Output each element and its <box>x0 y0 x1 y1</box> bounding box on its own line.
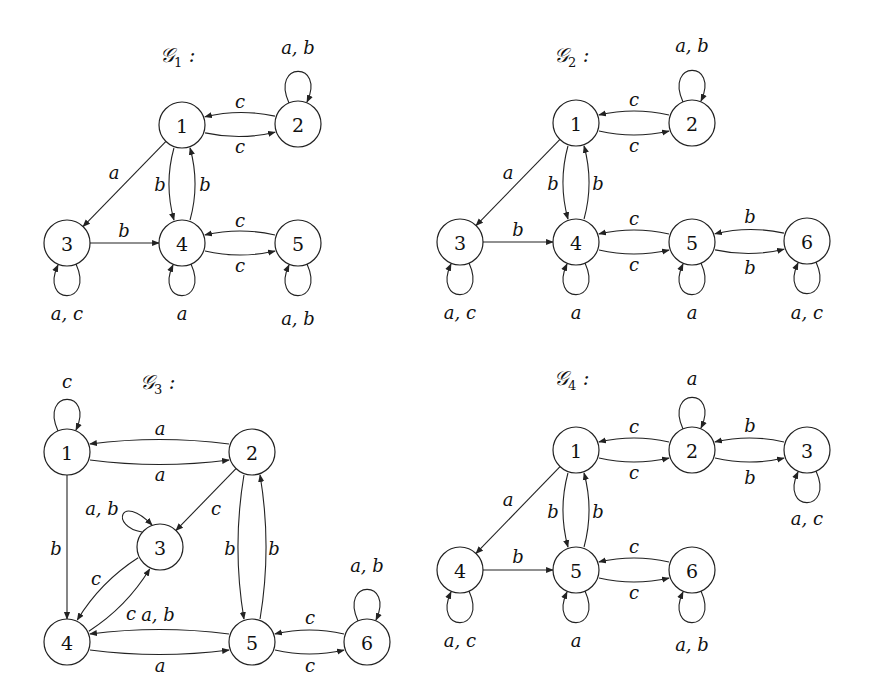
loop-label: a <box>177 303 188 324</box>
graph-g3: 𝒢3 :aabcbbcca, baccca, ba, b123456 <box>44 370 390 676</box>
state-label: 1 <box>176 115 188 137</box>
graph-g4: 𝒢4 :ccbbabbbccaa, ca, caa, b123456 <box>437 366 830 655</box>
edge-arrow <box>715 249 784 253</box>
self-loop-2: a, b <box>281 37 315 104</box>
state-node-1: 1 <box>44 429 90 475</box>
edge-4-to-1: b <box>547 146 589 219</box>
edge-label: b <box>592 501 604 522</box>
edge-label: c <box>629 135 639 156</box>
state-label: 1 <box>570 113 582 135</box>
state-node-6: 6 <box>344 619 390 665</box>
state-node-3: 3 <box>44 220 90 266</box>
edge-1-to-2: c <box>599 416 669 463</box>
edge-1-to-2: c <box>205 91 275 137</box>
self-loop-6: a, b <box>675 591 709 655</box>
loop-arrow <box>169 264 195 296</box>
state-label: 5 <box>246 632 258 654</box>
edge-4-to-5: c <box>205 210 275 256</box>
edge-label: a, b <box>141 604 175 625</box>
state-label: 2 <box>686 440 698 462</box>
loop-label: a <box>687 302 698 323</box>
state-node-4: 4 <box>44 619 90 665</box>
edge-label: b <box>50 538 62 559</box>
edge-arrow <box>205 112 275 116</box>
edge-5-to-1: b <box>547 473 589 547</box>
edge-label: c <box>235 136 245 157</box>
edge-3-to-4: b <box>483 219 553 243</box>
loop-label: c <box>62 371 72 392</box>
state-node-5: 5 <box>669 219 715 265</box>
edge-label: c <box>235 91 245 112</box>
graph-title: 𝒢2 : <box>554 43 589 70</box>
edge-2-to-5: b <box>238 475 280 619</box>
graph-g2: 𝒢2 :ccabbbccbba, ba, caaa, c123456 <box>437 35 830 323</box>
edge-arrow <box>190 148 195 220</box>
edge-arrow <box>90 439 229 444</box>
edge-label: b <box>744 467 756 488</box>
self-loop-6: a, b <box>350 555 384 622</box>
edge-label: b <box>744 415 756 436</box>
state-node-6: 6 <box>669 547 715 593</box>
self-loop-6: a, c <box>791 262 823 323</box>
edge-4-to-5: c <box>599 208 669 255</box>
loop-label: a, c <box>791 302 823 323</box>
state-node-2: 2 <box>669 427 715 473</box>
edge-label: a <box>503 489 514 510</box>
state-label: 3 <box>154 537 166 559</box>
state-label: 2 <box>686 113 698 135</box>
edge-arrow <box>599 111 669 115</box>
loop-label: a, c <box>51 303 83 324</box>
loop-label: a, b <box>350 555 384 576</box>
edge-label: b <box>154 174 166 195</box>
graph-title: 𝒢3 : <box>140 370 175 397</box>
edge-1-to-2: c <box>599 89 669 136</box>
state-label: 1 <box>570 440 582 462</box>
state-node-2: 2 <box>669 100 715 146</box>
loop-arrow <box>563 263 589 295</box>
edge-1-to-2: a <box>90 418 229 465</box>
edge-label: a <box>155 464 166 485</box>
self-loop-3: a, c <box>51 264 83 324</box>
loop-arrow <box>679 70 705 102</box>
state-node-1: 1 <box>553 100 599 146</box>
state-node-2: 2 <box>275 101 321 147</box>
edge-label: a <box>155 655 166 676</box>
state-node-3: 3 <box>137 524 183 570</box>
edge-label: c <box>629 89 639 110</box>
edge-1-to-4: b <box>50 475 67 619</box>
loop-label: a, b <box>675 634 709 655</box>
edge-label: b <box>224 538 236 559</box>
edge-label: c <box>211 498 221 519</box>
loop-label: a, b <box>281 37 315 58</box>
edge-arrow <box>599 438 669 442</box>
self-loop-5: a, b <box>281 264 315 329</box>
self-loop-3: a, c <box>791 471 823 529</box>
state-label: 2 <box>246 442 258 464</box>
state-label: 5 <box>570 560 582 582</box>
state-node-3: 3 <box>437 219 483 265</box>
edge-arrow <box>275 630 344 634</box>
edge-label: c <box>629 536 639 557</box>
edge-4-to-1: b <box>154 148 195 220</box>
edge-label: b <box>268 538 280 559</box>
graph-title: 𝒢4 : <box>554 366 589 393</box>
edge-label: c <box>629 208 639 229</box>
state-label: 4 <box>61 632 73 654</box>
edge-1-to-5: b <box>563 473 604 547</box>
edge-arrow <box>715 458 784 462</box>
edge-label: b <box>547 501 559 522</box>
state-node-4: 4 <box>437 547 483 593</box>
state-label: 3 <box>61 233 73 255</box>
edge-arrow <box>275 650 344 654</box>
edge-arrow <box>169 148 174 220</box>
loop-label: a, c <box>444 630 476 651</box>
loop-label: a <box>687 368 698 389</box>
edge-arrow <box>238 475 244 619</box>
edge-label: b <box>512 219 524 240</box>
self-loop-3: a, c <box>444 263 476 323</box>
self-loop-2: a <box>679 368 705 430</box>
diagram-canvas: 𝒢1 :ccabbbcca, ba, caa, b12345𝒢2 :ccabbb… <box>0 0 869 696</box>
state-label: 5 <box>686 232 698 254</box>
edge-label: b <box>592 173 604 194</box>
self-loop-5: a <box>563 591 589 651</box>
